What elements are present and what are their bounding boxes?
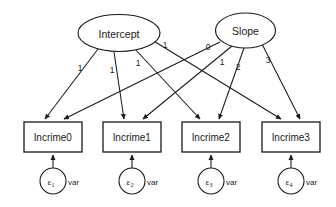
- sem-path-diagram: Intercept Slope lncrime0 lncrime1 lncrim…: [0, 0, 336, 207]
- path-intercept-to-lncrime1: [114, 52, 124, 119]
- latent-slope-node[interactable]: Slope: [216, 13, 276, 48]
- structural-paths-group: [45, 40, 300, 119]
- path-weight-slope-lncrime2: 2: [236, 62, 241, 72]
- error-term-e2-node[interactable]: ε2 var: [119, 168, 158, 194]
- path-weight-slope-lncrime1: 1: [220, 57, 225, 67]
- error-paths-group: [53, 155, 291, 168]
- path-intercept-to-lncrime3: [152, 40, 281, 119]
- path-weight-intercept-lncrime1: 1: [110, 65, 115, 75]
- lncrime0-label: lncrime0: [34, 132, 72, 143]
- path-intercept-to-lncrime0: [45, 49, 98, 119]
- lncrime2-label: lncrime2: [192, 132, 230, 143]
- observed-lncrime3-node[interactable]: lncrime3: [262, 122, 320, 152]
- intercept-label: Intercept: [99, 28, 140, 40]
- error-term-e1-node[interactable]: ε1 var: [40, 168, 79, 194]
- path-weight-intercept-lncrime0: 1: [78, 63, 83, 73]
- observed-lncrime1-node[interactable]: lncrime1: [103, 122, 161, 152]
- path-weight-slope-lncrime0: 0: [206, 42, 211, 52]
- sem-diagram-canvas: Intercept Slope lncrime0 lncrime1 lncrim…: [0, 0, 336, 207]
- error-term-e4-node[interactable]: ε4 var: [278, 168, 317, 194]
- path-weight-intercept-lncrime2: 1: [136, 58, 141, 68]
- path-weight-slope-lncrime3: 3: [266, 55, 271, 65]
- latent-intercept-node[interactable]: Intercept: [78, 15, 160, 52]
- observed-lncrime2-node[interactable]: lncrime2: [182, 122, 240, 152]
- e4-var-label: var: [306, 178, 317, 187]
- lncrime1-label: lncrime1: [113, 132, 151, 143]
- e1-var-label: var: [68, 178, 79, 187]
- path-weight-intercept-lncrime3: 1: [163, 40, 168, 50]
- e2-var-label: var: [147, 178, 158, 187]
- lncrime3-label: lncrime3: [272, 132, 310, 143]
- error-term-e3-node[interactable]: ε3 var: [198, 168, 237, 194]
- slope-label: Slope: [232, 25, 259, 37]
- e3-var-label: var: [226, 178, 237, 187]
- observed-lncrime0-node[interactable]: lncrime0: [24, 122, 82, 152]
- path-slope-to-lncrime0: [64, 42, 220, 119]
- path-intercept-to-lncrime2: [134, 48, 200, 119]
